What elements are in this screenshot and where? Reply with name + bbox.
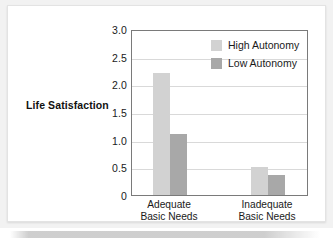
chart-figure: Life Satisfaction 3.02.52.01.51.00.50 Ad…	[0, 0, 333, 244]
y-axis-tick-label: 2.0	[112, 79, 127, 91]
chart-legend: High AutonomyLow Autonomy	[211, 37, 307, 73]
bar	[170, 134, 187, 195]
x-axis-category-label: InadequateBasic Needs	[212, 199, 322, 222]
y-axis-tick-label: 0.5	[112, 162, 127, 174]
legend-item: High Autonomy	[211, 37, 307, 53]
y-axis-tick-labels: 3.02.52.01.51.00.50	[95, 30, 127, 196]
x-axis-category-label-line: Adequate	[114, 199, 224, 211]
y-axis-tick-label: 3.0	[112, 24, 127, 36]
bar	[251, 167, 268, 195]
page-edge-shadow	[10, 231, 320, 238]
x-axis-category-label: AdequateBasic Needs	[114, 199, 224, 222]
y-axis-tick-label: 1.5	[112, 107, 127, 119]
legend-label: Low Autonomy	[228, 57, 297, 69]
y-axis-tick-label: 1.0	[112, 135, 127, 147]
legend-label: High Autonomy	[228, 39, 299, 51]
bar	[153, 73, 170, 195]
legend-swatch	[211, 40, 222, 51]
legend-swatch	[211, 58, 222, 69]
y-axis-tick-label: 2.5	[112, 52, 127, 64]
x-axis-category-label-line: Basic Needs	[212, 211, 322, 223]
x-axis-category-label-line: Inadequate	[212, 199, 322, 211]
legend-item: Low Autonomy	[211, 55, 307, 71]
x-axis-category-labels: AdequateBasic NeedsInadequateBasic Needs	[131, 199, 308, 229]
bar	[268, 175, 285, 196]
x-axis-category-label-line: Basic Needs	[114, 211, 224, 223]
